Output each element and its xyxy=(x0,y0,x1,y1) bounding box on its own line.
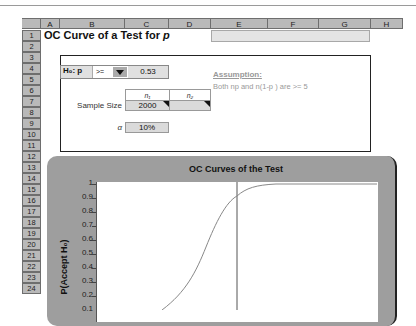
row-header-18[interactable]: 18 xyxy=(22,217,41,228)
row-header-9[interactable]: 9 xyxy=(22,118,41,129)
hypothesis-label: H₀: p xyxy=(63,66,82,75)
row-header-7[interactable]: 7 xyxy=(22,96,41,107)
dropdown-arrow-icon[interactable] xyxy=(113,67,127,77)
corner-header[interactable] xyxy=(22,18,41,29)
row-header-2[interactable]: 2 xyxy=(22,41,41,52)
row-header-15[interactable]: 15 xyxy=(22,184,41,195)
row-header-8[interactable]: 8 xyxy=(22,107,41,118)
row-header-20[interactable]: 20 xyxy=(22,239,41,250)
top-divider xyxy=(0,5,416,6)
y-tick-1: 1 xyxy=(58,178,93,187)
row-header-17[interactable]: 17 xyxy=(22,206,41,217)
y-axis-label: P(Accept H₀) xyxy=(59,227,69,307)
col-header-d[interactable]: D xyxy=(169,18,211,29)
n1-value: 2000 xyxy=(139,101,157,110)
y-tick-0.9: 0.9 xyxy=(58,192,93,201)
col-header-g[interactable]: G xyxy=(319,18,371,29)
merged-cell-e1-g1[interactable] xyxy=(211,30,370,42)
row-header-13[interactable]: 13 xyxy=(22,162,41,173)
row-header-10[interactable]: 10 xyxy=(22,129,41,140)
comment-indicator-icon xyxy=(204,101,210,107)
col-header-c[interactable]: C xyxy=(125,18,169,29)
row-header-1[interactable]: 1 xyxy=(22,30,41,41)
row-header-12[interactable]: 12 xyxy=(22,151,41,162)
assumption-heading: Assumption: xyxy=(213,70,262,79)
col-header-e[interactable]: E xyxy=(211,18,268,29)
n2-input[interactable] xyxy=(169,100,211,111)
row-header-24[interactable]: 24 xyxy=(22,283,41,294)
row-header-19[interactable]: 19 xyxy=(22,228,41,239)
sheet-title-var: p xyxy=(163,29,170,41)
oc-curve-line xyxy=(162,184,377,310)
row-header-21[interactable]: 21 xyxy=(22,250,41,261)
row-header-14[interactable]: 14 xyxy=(22,173,41,184)
oc-curve xyxy=(96,182,377,310)
col-header-b[interactable]: B xyxy=(60,18,125,29)
row-header-6[interactable]: 6 xyxy=(22,85,41,96)
alpha-input[interactable]: 10% xyxy=(125,122,169,133)
alpha-label: α xyxy=(110,123,122,132)
row-header-22[interactable]: 22 xyxy=(22,261,41,272)
sheet-title-text: OC Curve of a Test for xyxy=(44,29,163,41)
hypothesis-value-cell[interactable]: 0.53 xyxy=(128,66,168,78)
sheet-title: OC Curve of a Test for p xyxy=(44,29,170,41)
sample-size-label: Sample Size xyxy=(62,101,122,110)
row-header-4[interactable]: 4 xyxy=(22,63,41,74)
row-header-16[interactable]: 16 xyxy=(22,195,41,206)
col-header-a[interactable]: A xyxy=(41,18,60,29)
assumption-text: Both np and n(1-p ) are >= 5 xyxy=(213,82,308,91)
row-header-11[interactable]: 11 xyxy=(22,140,41,151)
row-header-3[interactable]: 3 xyxy=(22,52,41,63)
col-header-f[interactable]: F xyxy=(268,18,319,29)
row-header-5[interactable]: 5 xyxy=(22,74,41,85)
n1-input[interactable]: 2000 xyxy=(125,100,170,111)
chart-title: OC Curves of the Test xyxy=(96,164,376,174)
col-header-h[interactable]: H xyxy=(371,18,403,29)
y-tick-0.8: 0.8 xyxy=(58,206,93,215)
row-header-23[interactable]: 23 xyxy=(22,272,41,283)
